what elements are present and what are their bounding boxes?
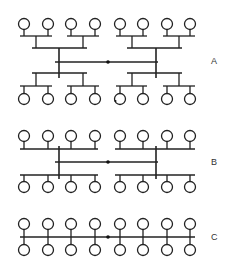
label-b: B: [211, 157, 217, 167]
label-a: A: [211, 56, 217, 66]
label-c: C: [211, 232, 218, 242]
network-topologies-diagram: [0, 0, 231, 271]
center-node-c: [106, 235, 110, 239]
stray-mark: [115, 100, 117, 102]
center-node-b: [106, 160, 110, 164]
center-node-a: [106, 60, 110, 64]
